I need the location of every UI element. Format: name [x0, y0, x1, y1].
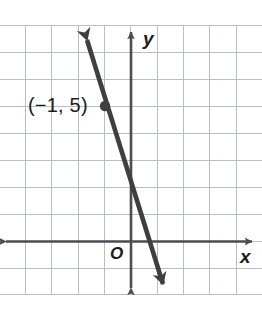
point-coordinate-label: (−1, 5) [28, 95, 88, 115]
origin-label: O [110, 245, 123, 262]
graph-canvas [0, 0, 262, 314]
x-axis-label: x [240, 247, 251, 266]
plotted-point [100, 101, 110, 111]
plotted-line [87, 40, 163, 284]
coordinate-plane-figure: (−1, 5) y x O [0, 0, 262, 314]
y-axis-label: y [143, 29, 154, 48]
